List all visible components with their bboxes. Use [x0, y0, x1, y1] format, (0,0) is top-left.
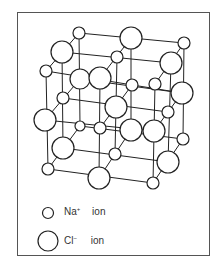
- nacl-lattice-diagram: [0, 0, 221, 269]
- na-legend-icon: [43, 208, 54, 219]
- na-legend-label: Na+ ion: [64, 206, 105, 217]
- cl-legend-icon: [38, 231, 58, 251]
- cl-legend-label: Cl− ion: [64, 235, 104, 246]
